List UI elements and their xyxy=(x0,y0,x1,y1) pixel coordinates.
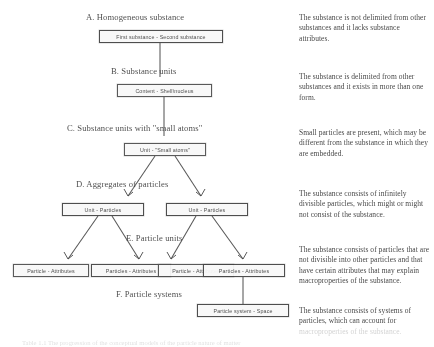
hierarchy-diagram: A. Homogeneous substance B. Substance un… xyxy=(0,0,292,347)
node-particle-system-space[interactable]: Particle system - Space xyxy=(197,304,289,317)
note-a: The substance is not delimited from othe… xyxy=(299,13,432,44)
node-particle-attributes-1[interactable]: Particle - Attributes xyxy=(13,264,89,277)
node-unit-particles-left[interactable]: Unit - Particles xyxy=(62,203,144,216)
note-f: The substance consists of systems of par… xyxy=(299,306,432,337)
section-label-c: C. Substance units with "small atoms" xyxy=(67,123,202,133)
note-f-text: The substance consists of systems of par… xyxy=(299,306,411,325)
section-label-f: F. Particle systems xyxy=(116,289,182,299)
note-d: The substance consists of infinitely div… xyxy=(299,189,432,220)
note-e: The substance consists of particles that… xyxy=(299,245,432,287)
figure-caption: Table 1.1 The progression of the concept… xyxy=(22,339,292,346)
node-first-second-substance[interactable]: First substance - Second substance xyxy=(99,30,223,43)
description-column: The substance is not delimited from othe… xyxy=(299,0,434,347)
section-label-d: D. Aggregates of particles xyxy=(76,179,168,189)
node-particles-attributes-4[interactable]: Particles - Attributes xyxy=(203,264,285,277)
section-label-a: A. Homogeneous substance xyxy=(86,12,184,22)
section-label-b: B. Substance units xyxy=(111,66,177,76)
node-content-shell-nucleus[interactable]: Content - Shell\nucleus xyxy=(117,84,212,97)
section-label-e: E. Particle units xyxy=(126,233,182,243)
scanned-figure-page: A. Homogeneous substance B. Substance un… xyxy=(0,0,434,347)
node-unit-small-atoms[interactable]: Unit - "Small atoms" xyxy=(124,143,206,156)
note-c: Small particles are present, which may b… xyxy=(299,128,432,159)
note-f-faded-tail: macroproperties of the substance. xyxy=(299,327,432,337)
note-b: The substance is delimited from other su… xyxy=(299,72,432,103)
node-unit-particles-right[interactable]: Unit - Particles xyxy=(166,203,248,216)
